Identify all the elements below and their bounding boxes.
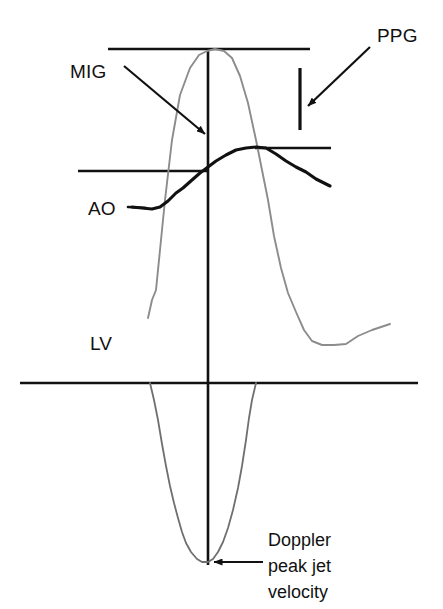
mig-label: MIG <box>70 61 107 82</box>
doppler-label-line1: Doppler <box>268 530 331 550</box>
doppler-label-line3: velocity <box>268 582 328 602</box>
ao-pressure-trace <box>132 147 330 209</box>
pressure-doppler-diagram: MIG PPG AO LV Doppler peak jet velocity <box>0 0 443 609</box>
doppler-jet-envelope <box>150 383 256 562</box>
lv-label: LV <box>90 333 112 354</box>
figure-root: MIG PPG AO LV Doppler peak jet velocity <box>0 0 443 609</box>
ppg-label: PPG <box>377 25 418 46</box>
lv-pressure-trace <box>148 49 390 345</box>
ao-leader-line <box>128 207 146 208</box>
doppler-label-line2: peak jet <box>268 556 331 576</box>
mig-leader-arrow <box>124 66 205 134</box>
ppg-leader-arrow <box>308 47 370 106</box>
ao-label: AO <box>88 198 116 219</box>
